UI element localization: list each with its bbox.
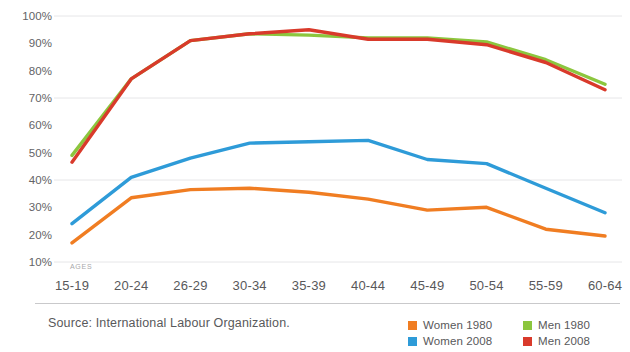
series-line <box>72 140 605 223</box>
x-axis-tick: 60-64 <box>565 269 630 293</box>
plot-area: 100%90%80%70%60%50%40%30%20%10% AGES 15-… <box>0 0 630 300</box>
legend-item-women_1980[interactable]: Women 1980 <box>408 319 523 331</box>
y-axis-tick-label: 70% <box>6 92 52 104</box>
y-axis: 100%90%80%70%60%50%40%30%20%10% <box>0 0 52 280</box>
legend-item-men_1980[interactable]: Men 1980 <box>523 319 624 331</box>
y-axis-tick-label: 80% <box>6 65 52 77</box>
legend-item-men_2008[interactable]: Men 2008 <box>523 335 624 347</box>
chart-legend: Women 1980Men 1980Women 2008Men 2008 <box>408 317 624 349</box>
legend-swatch-icon <box>523 337 532 346</box>
y-axis-tick-label: 40% <box>6 174 52 186</box>
footer-divider <box>35 303 620 304</box>
x-axis-tick-label: 60-64 <box>565 278 630 293</box>
legend-swatch-icon <box>408 337 417 346</box>
legend-swatch-icon <box>408 321 417 330</box>
source-note: Source: International Labour Organizatio… <box>48 316 290 330</box>
series-line <box>72 34 605 156</box>
y-axis-tick-label: 50% <box>6 147 52 159</box>
series-lines <box>72 30 605 243</box>
series-line <box>72 188 605 243</box>
y-axis-tick-label: 30% <box>6 201 52 213</box>
chart-canvas <box>0 0 630 300</box>
legend-label: Men 2008 <box>538 335 590 347</box>
x-axis: 15-1920-2426-2930-3435-3940-4445-4950-54… <box>0 269 630 301</box>
y-axis-tick-label: 10% <box>6 256 52 268</box>
legend-item-women_2008[interactable]: Women 2008 <box>408 335 523 347</box>
legend-label: Men 1980 <box>538 319 590 331</box>
legend-swatch-icon <box>523 321 532 330</box>
chart-figure: 100%90%80%70%60%50%40%30%20%10% AGES 15-… <box>0 0 630 352</box>
y-axis-tick-label: 20% <box>6 229 52 241</box>
y-axis-tick-label: 100% <box>6 10 52 22</box>
legend-label: Women 1980 <box>423 319 492 331</box>
y-axis-tick-label: 60% <box>6 119 52 131</box>
legend-label: Women 2008 <box>423 335 492 347</box>
y-axis-tick-label: 90% <box>6 37 52 49</box>
